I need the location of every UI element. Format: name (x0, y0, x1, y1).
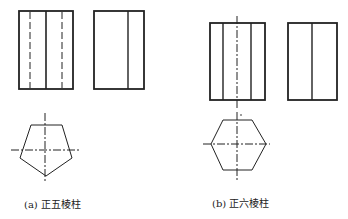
pentagon-prism-front-view (19, 11, 73, 89)
caption-b: (b) 正六棱柱 (212, 195, 269, 210)
dot-mark (240, 114, 242, 116)
caption-a: (a) 正五棱柱 (24, 196, 81, 211)
hexagon-prism-side-view (288, 23, 337, 100)
pentagon-top-view (11, 113, 79, 183)
prism-projections-diagram (0, 0, 348, 219)
hexagon-prism-front-view (210, 16, 265, 108)
pentagon-prism-side-view (94, 11, 144, 89)
hexagon-top-view (203, 112, 270, 182)
